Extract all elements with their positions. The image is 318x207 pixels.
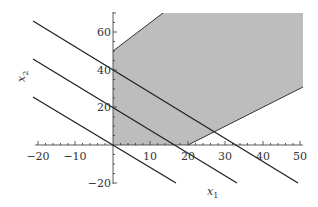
- y-tick-label: 20: [97, 101, 111, 114]
- x-tick-label: 10: [143, 150, 157, 163]
- x-tick-label: 50: [293, 150, 307, 163]
- y-tick-label: 40: [97, 64, 111, 77]
- y-tick-label: −20: [88, 177, 111, 190]
- x-tick-label: 30: [218, 150, 232, 163]
- x-tick-label: 20: [181, 150, 195, 163]
- y-axis-label: x2: [15, 71, 30, 82]
- linear-program-chart: −20 −10 10 20 30 40 50 60 40 20 −20 x1 x…: [0, 0, 318, 207]
- x-axis-label: x1: [207, 185, 218, 200]
- x-tick-label: −20: [26, 150, 49, 163]
- x-tick-label: −10: [63, 150, 86, 163]
- y-tick-label: 60: [97, 26, 111, 39]
- x-tick-label: 40: [256, 150, 270, 163]
